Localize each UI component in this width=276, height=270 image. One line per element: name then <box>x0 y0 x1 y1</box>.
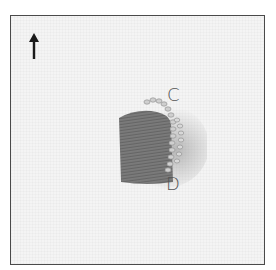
label-d: D <box>166 175 180 193</box>
label-c: C <box>167 86 180 104</box>
embroidery-stitch-sample <box>97 86 207 196</box>
arrow-up-icon <box>28 33 40 59</box>
illustration-frame: C D <box>10 15 265 265</box>
